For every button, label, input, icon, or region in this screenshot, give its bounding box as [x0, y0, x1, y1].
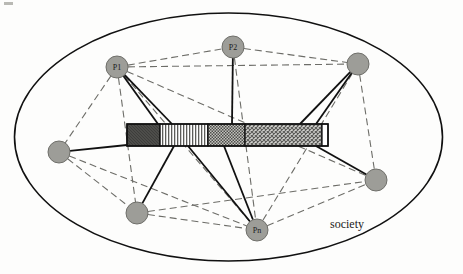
- artifact-segment-seg-dense-dots: [208, 124, 245, 146]
- social-link-soc-left-bottomleft: [68, 159, 129, 206]
- artifact-link-link-top-right-a: [300, 72, 350, 124]
- social-link-soc-bottomleft-bottomright: [148, 182, 365, 212]
- artifact-segment-seg-crosshatch: [245, 124, 322, 146]
- artifact-segment-seg-white-tip: [322, 124, 328, 146]
- social-link-soc-left-pn: [69, 156, 247, 226]
- node-n-left[interactable]: [48, 141, 70, 163]
- shared-artifact-group: [127, 124, 328, 146]
- diagram-svg: P1P2Pnsociety: [0, 0, 463, 274]
- social-link-soc-p1-topright: [128, 64, 347, 67]
- society-label: society: [330, 217, 364, 231]
- node-n-bottom-left[interactable]: [126, 202, 148, 224]
- artifact-link-link-bottom-left: [142, 146, 174, 203]
- node-n-bottom-right[interactable]: [365, 169, 387, 191]
- node-n-top-right[interactable]: [347, 53, 369, 75]
- node-label-p1: P1: [113, 63, 121, 72]
- figure-canvas: P1P2Pnsociety: [0, 0, 463, 274]
- artifact-link-link-pn-a: [188, 146, 250, 222]
- artifact-link-link-p1-b: [125, 75, 172, 124]
- social-link-soc-p2-topright: [244, 48, 347, 62]
- social-link-soc-topright-bottomright: [360, 75, 375, 169]
- artifact-link-link-bottom-right: [316, 146, 366, 175]
- artifact-link-link-p2: [232, 58, 233, 124]
- social-link-soc-topright-pn: [263, 73, 353, 220]
- social-link-soc-bottomleft-pn: [148, 215, 246, 229]
- social-link-soc-p1-left: [65, 76, 111, 143]
- social-link-soc-p1-p2: [128, 49, 222, 65]
- artifact-segment-seg-vertical-stripes: [160, 124, 208, 146]
- node-label-p2: P2: [229, 43, 237, 52]
- artifact-link-link-top-right-b: [316, 73, 352, 124]
- artifact-link-link-left: [70, 145, 127, 151]
- artifact-segment-seg-dark: [127, 124, 160, 146]
- node-label-pn: Pn: [253, 226, 261, 235]
